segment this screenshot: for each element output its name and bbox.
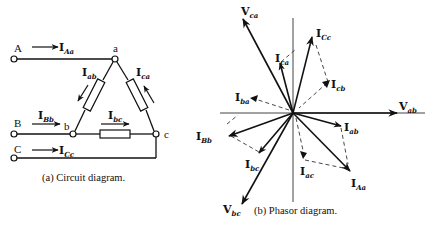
resistor-ca [126,79,148,111]
node-c-dot [153,131,159,137]
figure-canvas: A B C a b c IAa IBb ICc Iab Ica Ibc (a) … [0,0,436,228]
phasor-I-ca [280,63,293,113]
label-I-Cc: ICc [316,27,332,42]
branch-ca-top [117,62,128,80]
terminal-C-dot [11,155,17,161]
node-b-dot [70,131,76,137]
arrow-I-ab [78,85,88,101]
resistor-ab [83,79,105,111]
label-V-bc: Vbc [222,203,241,218]
terminal-label-C: C [14,143,21,155]
node-a-dot [112,56,118,62]
phasor-I-Cc [293,37,312,113]
label-I-Aa: IAa [59,41,75,56]
caption-circuit: (a) Circuit diagram. [42,172,125,184]
label-V-ab: Vab [398,100,417,115]
label-I-ab: Iab [82,66,97,81]
node-label-c: c [164,128,169,140]
resistor-bc [100,130,130,138]
label-I-ac: Iac [300,165,315,180]
label-I-Bb: IBb [38,109,54,124]
label-I-Bb: IBb [196,130,212,145]
branch-ab-bottom [75,110,85,131]
label-I-Aa: IAa [351,177,367,192]
label-I-bc: Ibc [108,109,123,124]
terminal-A-dot [11,56,17,62]
arrowhead-I-ac [300,151,307,159]
label-I-ca: Ica [136,66,150,81]
branch-ca-bottom [146,110,154,131]
node-label-a: a [113,42,118,54]
label-I-ab: Iab [344,121,359,136]
terminal-label-B: B [14,117,21,129]
label-I-ca: Ica [275,52,289,67]
circuit-diagram: A B C a b c IAa IBb ICc Iab Ica Ibc (a) … [11,41,169,184]
label-I-Cc: ICc [59,144,75,159]
arrowhead-I-ba [250,95,258,102]
terminal-label-A: A [14,42,22,54]
caption-phasor: (b) Phasor diagram. [254,205,337,217]
arrow-I-ca [144,86,154,103]
label-I-cb: Icb [331,78,345,93]
arrowhead-I-cb [322,80,330,88]
branch-ab-top [103,62,113,80]
label-I-ba: Iba [235,91,250,106]
phasor-diagram: Vca Vab Vbc ICc Ica Icb Iba IBb Ibc Iab … [196,5,425,218]
terminal-B-dot [11,131,17,137]
node-label-b: b [64,120,70,132]
label-I-bc: Ibc [245,158,260,173]
label-V-ca: Vca [240,5,259,20]
